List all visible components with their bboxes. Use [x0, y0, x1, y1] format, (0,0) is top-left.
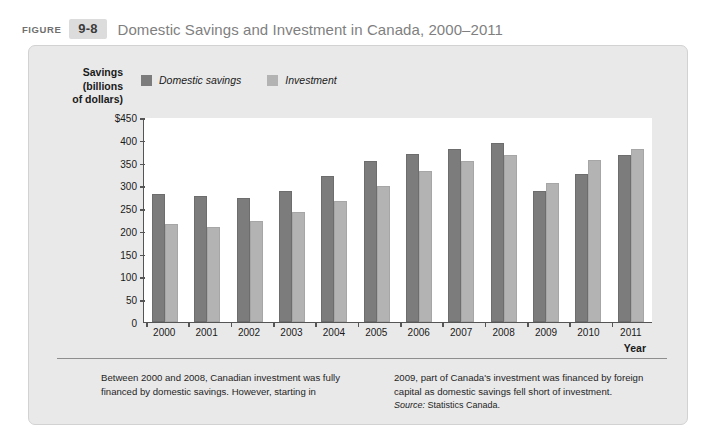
- x-axis-title: Year: [624, 342, 646, 354]
- x-axis-labels: 2000200120022003200420052006200720082009…: [143, 327, 652, 343]
- legend-entry: Investment: [267, 74, 336, 86]
- y-axis-tick-mark: [140, 164, 145, 166]
- bar-group: [152, 118, 178, 322]
- figure-label: FIGURE: [22, 24, 61, 35]
- caption-column-left: Between 2000 and 2008, Canadian investme…: [101, 371, 372, 410]
- x-axis-label: 2009: [525, 327, 567, 343]
- bar-investment: [504, 155, 517, 322]
- bar-domestic-savings: [364, 161, 377, 322]
- caption-source-label: Source:: [394, 400, 425, 410]
- bar-group: [194, 118, 220, 322]
- bar-investment: [334, 201, 347, 322]
- bar-investment: [207, 227, 220, 322]
- bar-investment: [292, 212, 305, 322]
- y-axis-tick-mark: [140, 300, 145, 302]
- caption-column-right: 2009, part of Canada's investment was fi…: [394, 371, 665, 410]
- caption-text-right: 2009, part of Canada's investment was fi…: [394, 371, 665, 398]
- bar-group: [491, 118, 517, 322]
- bar-group: [364, 118, 390, 322]
- x-axis-label: 2003: [270, 327, 312, 343]
- x-axis-label: 2002: [228, 327, 270, 343]
- bar-group: [618, 118, 644, 322]
- caption-text-left: Between 2000 and 2008, Canadian investme…: [101, 371, 372, 398]
- bar-domestic-savings: [194, 196, 207, 322]
- bar-group: [321, 118, 347, 322]
- y-axis-title: Savings (billions of dollars): [39, 66, 123, 107]
- y-axis-tick-mark: [140, 186, 145, 188]
- legend-label: Investment: [285, 74, 336, 86]
- bar-domestic-savings: [448, 149, 461, 322]
- bar-domestic-savings: [533, 191, 546, 322]
- bar-investment: [546, 183, 559, 322]
- x-axis-label: 2001: [185, 327, 227, 343]
- bar-group: [406, 118, 432, 322]
- bar-investment: [631, 149, 644, 322]
- bar-group: [279, 118, 305, 322]
- bar-domestic-savings: [406, 154, 419, 322]
- bar-investment: [250, 221, 263, 322]
- x-axis-label: 2004: [313, 327, 355, 343]
- bar-domestic-savings: [237, 198, 250, 322]
- legend-label: Domestic savings: [159, 74, 241, 86]
- y-axis-tick-mark: [140, 118, 145, 120]
- y-axis-tick-mark: [140, 277, 145, 279]
- x-axis-label: 2000: [143, 327, 185, 343]
- figure-title: Domestic Savings and Investment in Canad…: [118, 21, 504, 38]
- legend-swatch-icon: [267, 75, 278, 86]
- figure-panel: Savings (billions of dollars) Domestic s…: [28, 45, 688, 425]
- legend-swatch-icon: [141, 75, 152, 86]
- bar-investment: [377, 186, 390, 322]
- x-axis-label: 2006: [398, 327, 440, 343]
- bar-group: [448, 118, 474, 322]
- y-axis-tick-mark: [140, 232, 145, 234]
- x-axis-label: 2008: [482, 327, 524, 343]
- caption-source-value: Statistics Canada.: [428, 400, 501, 410]
- bar-domestic-savings: [321, 176, 334, 322]
- x-axis-label: 2010: [567, 327, 609, 343]
- bar-investment: [461, 161, 474, 322]
- bar-domestic-savings: [152, 194, 165, 322]
- x-axis-label: 2011: [610, 327, 652, 343]
- plot-area: $450400350300250200150100500: [143, 118, 652, 323]
- figure-header: FIGURE 9-8 Domestic Savings and Investme…: [22, 18, 503, 40]
- figure-caption: Between 2000 and 2008, Canadian investme…: [101, 371, 665, 410]
- bar-domestic-savings: [279, 191, 292, 322]
- y-axis-tick-mark: [140, 255, 145, 257]
- bar-domestic-savings: [491, 143, 504, 322]
- bar-domestic-savings: [618, 155, 631, 322]
- bar-investment: [165, 224, 178, 322]
- bar-investment: [588, 160, 601, 322]
- y-axis-tick-mark: [140, 209, 145, 211]
- caption-source: Source: Statistics Canada.: [394, 400, 665, 410]
- y-axis-tick-mark: [140, 141, 145, 143]
- figure-number-badge: 9-8: [69, 19, 106, 39]
- plot-wrapper: $450400350300250200150100500 20002001200…: [107, 118, 652, 323]
- x-axis-label: 2005: [355, 327, 397, 343]
- y-axis-tick-label: 0: [108, 318, 144, 329]
- legend-entry: Domestic savings: [141, 74, 241, 86]
- bar-group: [575, 118, 601, 322]
- x-axis-label: 2007: [440, 327, 482, 343]
- bar-investment: [419, 171, 432, 322]
- bar-group: [237, 118, 263, 322]
- caption-divider: [57, 358, 667, 359]
- bars-container: [144, 118, 652, 322]
- bar-domestic-savings: [575, 174, 588, 323]
- chart-legend: Domestic savingsInvestment: [141, 74, 337, 86]
- bar-group: [533, 118, 559, 322]
